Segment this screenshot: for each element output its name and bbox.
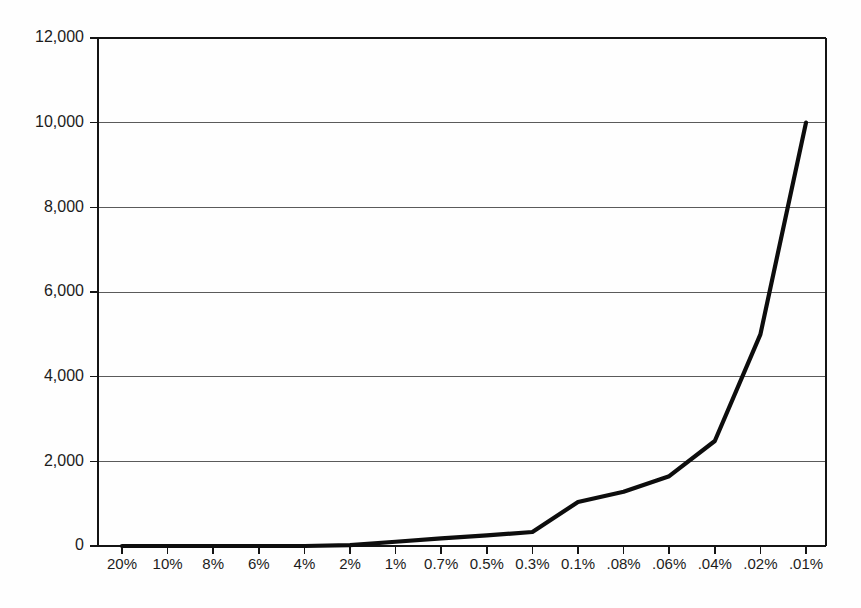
x-axis-label: .06%: [652, 555, 686, 572]
y-axis-label: 0: [75, 536, 84, 553]
chart-container: 02,0004,0006,0008,00010,00012,000 20%10%…: [0, 0, 861, 608]
x-axis-label: 1%: [385, 555, 407, 572]
y-axis-label: 6,000: [44, 282, 84, 299]
x-axis-label: 20%: [107, 555, 137, 572]
y-axis-label: 4,000: [44, 367, 84, 384]
x-axis-label: 0.7%: [424, 555, 458, 572]
x-axis-label: 0.3%: [515, 555, 549, 572]
x-axis-label: 8%: [202, 555, 224, 572]
x-axis-label: .08%: [606, 555, 640, 572]
x-axis-label: .04%: [698, 555, 732, 572]
x-axis-label: .01%: [789, 555, 823, 572]
x-axis-label: 0.5%: [470, 555, 504, 572]
x-axis-label: 4%: [294, 555, 316, 572]
chart-background: [0, 0, 861, 608]
y-axis-label: 2,000: [44, 452, 84, 469]
x-axis-label: .02%: [743, 555, 777, 572]
x-axis-label: 6%: [248, 555, 270, 572]
x-axis-label: 0.1%: [561, 555, 595, 572]
x-axis-label: 10%: [153, 555, 183, 572]
y-axis-label: 12,000: [35, 28, 84, 45]
y-axis-label: 8,000: [44, 198, 84, 215]
line-chart: 02,0004,0006,0008,00010,00012,000 20%10%…: [0, 0, 861, 608]
x-axis-label: 2%: [339, 555, 361, 572]
y-axis-label: 10,000: [35, 113, 84, 130]
